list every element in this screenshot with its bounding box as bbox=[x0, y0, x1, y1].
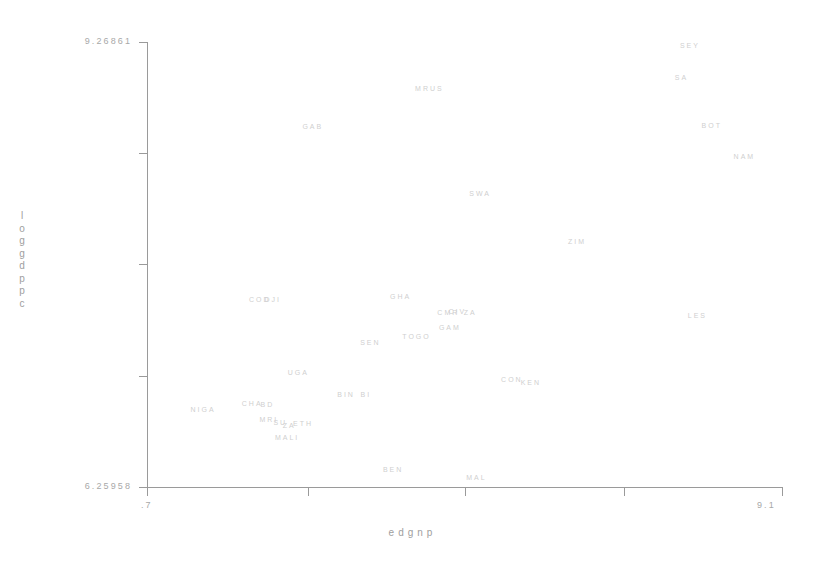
data-point-label: LES bbox=[688, 312, 707, 319]
data-point-label: NIGA bbox=[190, 405, 215, 412]
data-point-label: SEN bbox=[360, 339, 380, 346]
data-point-label: CHA bbox=[242, 399, 263, 406]
data-point-label: MAL bbox=[466, 473, 486, 480]
data-point-label: ZA bbox=[464, 309, 477, 316]
data-point-label: KEN bbox=[521, 378, 541, 385]
data-point-label: BOT bbox=[702, 121, 722, 128]
data-point-label: GAB bbox=[302, 123, 323, 130]
data-point-label: TOGO bbox=[402, 333, 430, 340]
data-point-label: DJI bbox=[264, 296, 281, 303]
data-point-label: BI bbox=[360, 390, 371, 397]
data-point-label: CMR bbox=[437, 309, 459, 316]
data-point-label: ETH bbox=[293, 420, 313, 427]
data-point-label: SEY bbox=[680, 41, 700, 48]
data-point-label: UGA bbox=[288, 368, 309, 375]
data-point-label: NAM bbox=[734, 152, 756, 159]
scatter-plot-figure: 9.26861 6.25958 .7 9.1 edgnp loggdppc SE… bbox=[0, 0, 825, 569]
data-points-layer: SEYSAMRUSBOTGABNAMSWAZIMCODDJIGHACIVCMRZ… bbox=[0, 0, 825, 569]
data-point-label: ZIM bbox=[568, 238, 586, 245]
data-point-label: SA bbox=[675, 74, 688, 81]
data-point-label: GAM bbox=[439, 324, 461, 331]
data-point-label: SWA bbox=[469, 189, 491, 196]
data-point-label: BEN bbox=[383, 466, 403, 473]
data-point-label: GHA bbox=[390, 293, 411, 300]
data-point-label: BIN bbox=[337, 390, 355, 397]
data-point-label: CON bbox=[501, 376, 523, 383]
data-point-label: MRUS bbox=[415, 84, 444, 91]
data-point-label: MALI bbox=[275, 433, 299, 440]
data-point-label: BD bbox=[261, 401, 275, 408]
